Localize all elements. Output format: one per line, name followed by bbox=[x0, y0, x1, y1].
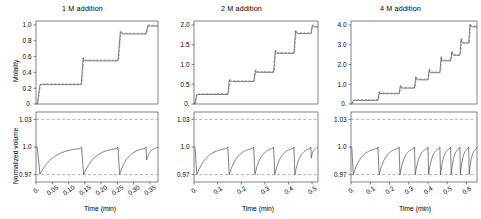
svg-text:1.0: 1.0 bbox=[23, 21, 32, 28]
svg-text:3.0: 3.0 bbox=[338, 41, 347, 48]
svg-text:1.0: 1.0 bbox=[181, 61, 190, 68]
panel-1m-plot: 0.0.20.40.60.81.00.971.01.030.0.050.100.… bbox=[0, 0, 165, 219]
svg-text:0.5: 0.5 bbox=[307, 184, 319, 195]
svg-text:0.: 0. bbox=[184, 100, 190, 107]
svg-text:0.2: 0.2 bbox=[23, 85, 32, 92]
svg-text:0.5: 0.5 bbox=[442, 184, 454, 195]
svg-text:0.1: 0.1 bbox=[212, 184, 224, 195]
svg-text:0.2: 0.2 bbox=[384, 184, 396, 195]
svg-text:0.: 0. bbox=[26, 100, 32, 107]
svg-text:1.03: 1.03 bbox=[177, 116, 190, 123]
svg-text:0.8: 0.8 bbox=[23, 37, 32, 44]
svg-text:0.30: 0.30 bbox=[127, 183, 142, 196]
svg-text:0.: 0. bbox=[32, 185, 41, 194]
svg-text:0.4: 0.4 bbox=[283, 184, 295, 195]
svg-text:0.6: 0.6 bbox=[461, 184, 473, 195]
svg-text:1.0: 1.0 bbox=[181, 143, 190, 150]
svg-text:0.20: 0.20 bbox=[94, 183, 109, 196]
svg-text:0.4: 0.4 bbox=[23, 69, 32, 76]
panel-1m: 1 M addition Molality Normalized volume … bbox=[0, 0, 165, 219]
panel-2m-plot: 0.0.51.01.52.00.971.01.030.0.10.20.30.40… bbox=[160, 0, 323, 219]
svg-text:0.: 0. bbox=[347, 185, 356, 194]
svg-text:1.0: 1.0 bbox=[338, 143, 347, 150]
panel-4m-plot: 0.1.02.03.04.00.971.01.030.0.10.20.30.40… bbox=[320, 0, 481, 219]
svg-text:0.05: 0.05 bbox=[45, 183, 60, 196]
svg-text:0.: 0. bbox=[190, 185, 199, 194]
svg-text:1.03: 1.03 bbox=[334, 116, 347, 123]
svg-text:0.3: 0.3 bbox=[403, 184, 415, 195]
svg-text:0.: 0. bbox=[341, 100, 347, 107]
svg-text:2.0: 2.0 bbox=[181, 21, 190, 28]
panel-2m: 2 M addition Time (min) 0.0.51.01.52.00.… bbox=[160, 0, 323, 219]
svg-text:0.4: 0.4 bbox=[422, 184, 434, 195]
svg-text:0.15: 0.15 bbox=[78, 183, 93, 196]
svg-text:0.97: 0.97 bbox=[19, 171, 32, 178]
svg-text:0.25: 0.25 bbox=[110, 183, 125, 196]
svg-text:0.6: 0.6 bbox=[23, 53, 32, 60]
svg-text:0.3: 0.3 bbox=[259, 184, 271, 195]
svg-text:0.97: 0.97 bbox=[177, 171, 190, 178]
svg-text:2.0: 2.0 bbox=[338, 61, 347, 68]
svg-text:0.1: 0.1 bbox=[365, 184, 377, 195]
svg-text:1.5: 1.5 bbox=[181, 41, 190, 48]
svg-text:0.5: 0.5 bbox=[181, 81, 190, 88]
svg-text:0.10: 0.10 bbox=[61, 183, 76, 196]
figure-root: 1 M addition Molality Normalized volume … bbox=[0, 0, 481, 219]
panel-4m: 4 M addition Time (min) 0.1.02.03.04.00.… bbox=[320, 0, 481, 219]
svg-text:0.2: 0.2 bbox=[236, 184, 248, 195]
svg-text:1.0: 1.0 bbox=[338, 81, 347, 88]
svg-text:0.35: 0.35 bbox=[143, 183, 158, 196]
svg-text:1.03: 1.03 bbox=[19, 116, 32, 123]
svg-text:1.0: 1.0 bbox=[23, 143, 32, 150]
svg-text:0.97: 0.97 bbox=[334, 171, 347, 178]
svg-text:4.0: 4.0 bbox=[338, 21, 347, 28]
